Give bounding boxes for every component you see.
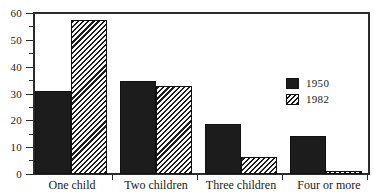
bar-three-children-1982	[241, 0, 277, 174]
bar-rect	[290, 136, 326, 174]
legend-label-1982: 1982	[306, 94, 329, 105]
bar-three-children-1950	[205, 0, 241, 174]
bar-rect	[156, 86, 192, 174]
bar-rect	[205, 124, 241, 174]
legend-swatch-solid-icon	[286, 78, 299, 89]
bar-chart: 60 50 40 30 20 10 0	[0, 0, 374, 192]
bar-rect	[35, 91, 71, 174]
legend: 1950 1982	[286, 77, 329, 105]
x-tick-1	[112, 175, 113, 180]
bar-rect	[120, 81, 156, 174]
bar-rect	[71, 20, 107, 174]
x-tick-2	[197, 175, 198, 180]
bar-one-child-1950	[35, 0, 71, 174]
legend-item-1950: 1950	[286, 77, 329, 89]
bar-rect	[241, 157, 277, 174]
legend-item-1982: 1982	[286, 93, 329, 105]
x-axis-label-one-child: One child	[33, 179, 111, 192]
x-axis-label-two-children: Two children	[116, 179, 196, 192]
bar-one-child-1982	[71, 0, 107, 174]
bar-four-or-more-1982	[326, 0, 362, 174]
legend-swatch-hatch-icon	[286, 94, 299, 105]
bar-rect	[326, 171, 362, 174]
legend-label-1950: 1950	[306, 78, 329, 89]
bar-two-children-1982	[156, 0, 192, 174]
bar-two-children-1950	[120, 0, 156, 174]
x-axis-label-three-children: Three children	[199, 179, 283, 192]
y-tick-0	[26, 174, 33, 175]
x-axis-label-four-or-more: Four or more	[288, 179, 370, 192]
